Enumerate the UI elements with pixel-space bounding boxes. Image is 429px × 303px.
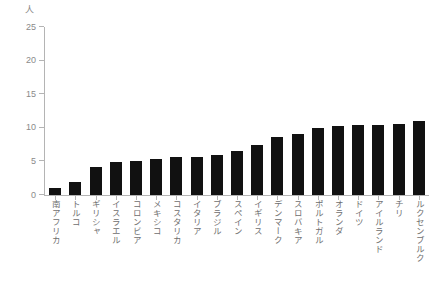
x-axis-label: ルクセンブルク bbox=[413, 200, 422, 263]
bar-slot bbox=[247, 27, 267, 195]
bar bbox=[231, 151, 243, 195]
bar bbox=[211, 155, 223, 195]
bar-slot bbox=[328, 27, 348, 195]
x-axis-label: ポルトガル bbox=[312, 200, 321, 245]
bar-slot bbox=[85, 27, 105, 195]
bar-slot bbox=[146, 27, 166, 195]
bar bbox=[90, 167, 102, 195]
x-axis-label: スロバキア bbox=[292, 200, 301, 245]
bar-slot bbox=[288, 27, 308, 195]
bar bbox=[69, 182, 81, 195]
bar-slot bbox=[389, 27, 409, 195]
x-axis-label: トルコ bbox=[70, 200, 79, 227]
bar-slot bbox=[186, 27, 206, 195]
y-axis-tick-label: 20 bbox=[26, 56, 36, 65]
y-axis-tick-label: 10 bbox=[26, 123, 36, 132]
bar bbox=[312, 128, 324, 195]
y-axis-tick-label: 5 bbox=[31, 156, 36, 165]
bar bbox=[292, 134, 304, 195]
bar bbox=[413, 121, 425, 195]
bar bbox=[191, 157, 203, 195]
x-axis-labels: 南アフリカトルコギリシャイスラエルコロンビアメキシココスタリカイタリアブラジルス… bbox=[44, 200, 429, 300]
x-axis-label: チリ bbox=[393, 200, 402, 218]
plot-area: 0510152025 bbox=[44, 27, 429, 196]
x-axis-label: メキシコ bbox=[151, 200, 160, 236]
bar-slot bbox=[348, 27, 368, 195]
y-axis-tick: 10 bbox=[39, 127, 44, 128]
bar bbox=[251, 145, 263, 195]
x-axis-label: デンマーク bbox=[272, 200, 281, 245]
bar bbox=[150, 159, 162, 195]
x-axis-label: コスタリカ bbox=[171, 200, 180, 245]
bar bbox=[110, 162, 122, 195]
bar-slot bbox=[267, 27, 287, 195]
x-axis-label: ドイツ bbox=[353, 200, 362, 227]
x-axis-label: ブラジル bbox=[211, 200, 220, 236]
bar-slot bbox=[409, 27, 429, 195]
x-axis-label: オランダ bbox=[333, 200, 342, 236]
bar-slot bbox=[45, 27, 65, 195]
bar-slot bbox=[227, 27, 247, 195]
y-axis-tick: 5 bbox=[39, 160, 44, 161]
bar-slot bbox=[126, 27, 146, 195]
bar-slot bbox=[106, 27, 126, 195]
bar bbox=[372, 125, 384, 195]
bar-slot bbox=[308, 27, 328, 195]
y-axis-tick: 0 bbox=[39, 194, 44, 195]
x-axis-label: 南アフリカ bbox=[50, 200, 59, 245]
bar-series bbox=[45, 27, 429, 195]
y-axis-tick: 20 bbox=[39, 60, 44, 61]
x-axis-label: コロンビア bbox=[130, 200, 139, 245]
y-axis-tick-label: 15 bbox=[26, 89, 36, 98]
bar bbox=[130, 161, 142, 195]
y-axis-unit-label: 人 bbox=[25, 6, 34, 15]
x-axis-label: イスラエル bbox=[110, 200, 119, 245]
y-axis-tick-label: 0 bbox=[31, 190, 36, 199]
x-axis-label: イタリア bbox=[191, 200, 200, 236]
bar-slot bbox=[65, 27, 85, 195]
y-axis-tick: 25 bbox=[39, 26, 44, 27]
bar bbox=[170, 157, 182, 195]
bar bbox=[332, 126, 344, 195]
x-axis-label: イギリス bbox=[252, 200, 261, 236]
bar bbox=[352, 125, 364, 195]
x-axis-label: ギリシャ bbox=[90, 200, 99, 236]
x-axis-label: アイルランド bbox=[373, 200, 382, 254]
bar-chart: 人 0510152025 南アフリカトルコギリシャイスラエルコロンビアメキシココ… bbox=[0, 0, 429, 303]
y-axis-tick: 15 bbox=[39, 93, 44, 94]
bar bbox=[393, 124, 405, 195]
bar bbox=[49, 188, 61, 195]
x-axis-label: スペイン bbox=[232, 200, 241, 236]
bar-slot bbox=[207, 27, 227, 195]
bar bbox=[271, 137, 283, 195]
bar-slot bbox=[166, 27, 186, 195]
y-axis-tick-label: 25 bbox=[26, 22, 36, 31]
bar-slot bbox=[368, 27, 388, 195]
